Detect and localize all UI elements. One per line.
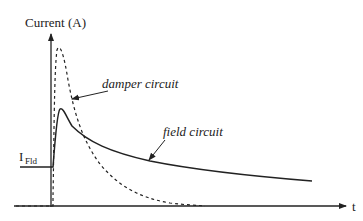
x-axis-label: t [352, 199, 356, 214]
svg-text:Fld: Fld [25, 156, 38, 166]
field-circuit-label: field circuit [163, 124, 223, 139]
field-pointer-arrow [149, 140, 165, 160]
ifld-label: I Fld [19, 149, 38, 166]
damper-pointer-arrow [72, 91, 108, 99]
damper-circuit-label: damper circuit [102, 76, 179, 91]
svg-text:I: I [19, 149, 23, 164]
current-transient-diagram: Current (A) t I Fld damper circuit field… [0, 0, 363, 221]
y-axis-label: Current (A) [25, 15, 86, 30]
field-circuit-curve [20, 109, 312, 181]
